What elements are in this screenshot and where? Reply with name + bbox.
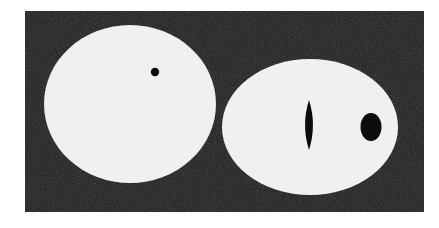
scan-grain-overlay	[25, 11, 424, 212]
figure-root: Scanned binary figure of two white round…	[0, 0, 439, 228]
figure-canvas: Scanned binary figure of two white round…	[0, 0, 439, 228]
